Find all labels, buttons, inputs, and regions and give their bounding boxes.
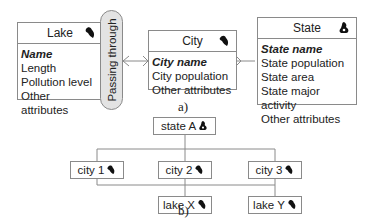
city-icon bbox=[218, 34, 230, 47]
city-attribute: City population bbox=[152, 69, 233, 83]
relationship-label: Passing through bbox=[106, 18, 118, 101]
city-entity: City City name City population Other att… bbox=[148, 30, 237, 90]
state-icon bbox=[198, 120, 208, 131]
city-key-attribute: City name bbox=[152, 55, 233, 69]
lake-icon bbox=[84, 26, 96, 39]
tree-node-lake-y: lake Y bbox=[248, 196, 302, 214]
node-label: state A bbox=[161, 120, 196, 132]
lake-attribute: Other attributes bbox=[21, 89, 99, 117]
tree-node-city-1: city 1 bbox=[70, 161, 124, 179]
lake-icon bbox=[197, 199, 207, 210]
city-attribute: Other attributes bbox=[152, 83, 233, 97]
lake-entity-title: Lake bbox=[47, 26, 73, 40]
lake-attribute: Length bbox=[21, 61, 99, 75]
city-icon bbox=[194, 164, 204, 175]
node-label: lake Y bbox=[253, 199, 285, 211]
lake-icon bbox=[287, 199, 297, 210]
lake-attribute: Pollution level bbox=[21, 75, 99, 89]
city-entity-title: City bbox=[182, 34, 203, 48]
city-icon bbox=[106, 164, 116, 175]
state-entity-header: State bbox=[258, 18, 356, 39]
state-attribute: Other attributes bbox=[261, 112, 353, 126]
lake-entity: Lake Name Length Pollution level Other a… bbox=[17, 22, 103, 100]
caption-a: a) bbox=[178, 99, 188, 115]
caption-b: b) bbox=[178, 203, 189, 219]
state-attribute: State population bbox=[261, 56, 353, 70]
node-label: city 1 bbox=[78, 164, 105, 176]
city-entity-header: City bbox=[149, 31, 236, 52]
state-entity-title: State bbox=[293, 21, 321, 35]
node-label: city 2 bbox=[166, 164, 193, 176]
tree-node-state-a: state A bbox=[153, 117, 216, 135]
lake-entity-header: Lake bbox=[18, 23, 102, 44]
city-icon bbox=[284, 164, 294, 175]
node-label: city 3 bbox=[256, 164, 283, 176]
state-key-attribute: State name bbox=[261, 42, 353, 56]
relationship-passing-through: Passing through bbox=[100, 10, 123, 110]
tree-node-city-2: city 2 bbox=[158, 161, 212, 179]
lake-key-attribute: Name bbox=[21, 47, 99, 61]
state-icon bbox=[338, 21, 350, 34]
state-attribute: State major activity bbox=[261, 84, 353, 112]
state-attribute: State area bbox=[261, 70, 353, 84]
tree-node-city-3: city 3 bbox=[248, 161, 302, 179]
state-entity: State State name State population State … bbox=[257, 17, 357, 105]
